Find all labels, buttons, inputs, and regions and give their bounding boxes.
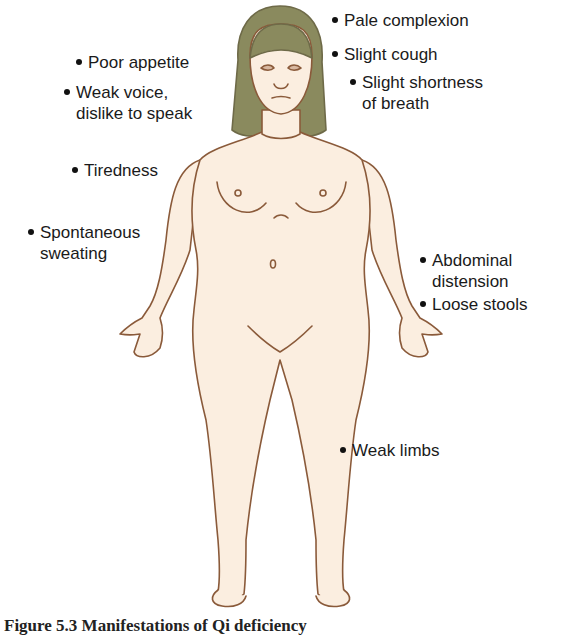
label-spontaneous-sweating: Spontaneous sweating (28, 222, 140, 264)
figure-caption: Figure 5.3 Manifestations of Qi deficien… (4, 616, 307, 636)
left-eye (261, 65, 274, 70)
bullet-icon (72, 167, 78, 173)
label-poor-appetite: Poor appetite (76, 52, 189, 73)
bullet-icon (332, 51, 338, 57)
label-shortness-of-breath: Slight shortness of breath (350, 72, 483, 114)
label-pale-complexion: Pale complexion (332, 10, 469, 31)
label-abdominal-distension: Abdominal distension (420, 250, 512, 292)
label-weak-voice: Weak voice, dislike to speak (64, 82, 192, 124)
bullet-icon (350, 79, 356, 85)
bullet-icon (332, 17, 338, 23)
bullet-icon (340, 447, 346, 453)
label-weak-limbs: Weak limbs (340, 440, 440, 461)
bullet-icon (420, 301, 426, 307)
right-eye (288, 65, 301, 70)
torso (192, 132, 370, 598)
bullet-icon (28, 229, 34, 235)
label-tiredness: Tiredness (72, 160, 158, 181)
bullet-icon (420, 257, 426, 263)
label-loose-stools: Loose stools (420, 294, 527, 315)
bullet-icon (76, 59, 82, 65)
label-slight-cough: Slight cough (332, 44, 438, 65)
bullet-icon (64, 89, 70, 95)
